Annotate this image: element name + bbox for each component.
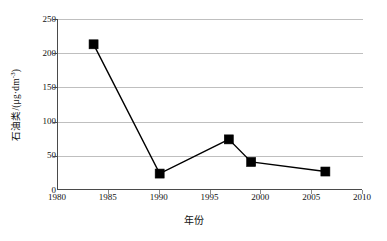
data-point-1 [155,169,164,178]
data-point-3 [247,157,256,166]
data-series-layer [58,19,363,190]
plot-area [57,19,362,190]
data-point-0 [89,40,98,49]
y-axis-title-text: 石油类/(μg·dm [11,78,21,141]
series-line [94,44,326,173]
x-tick-mark-1990 [159,190,160,194]
x-tick-mark-1985 [108,190,109,194]
x-tick-mark-2005 [311,190,312,194]
x-axis-title: 年份 [0,212,387,227]
oil-concentration-line-chart: 石油类/(μg·dm-3) 050100150200250 1980198519… [0,0,387,241]
data-point-2 [224,135,233,144]
y-axis-title: 石油类/(μg·dm-3) [8,38,24,172]
x-tick-mark-1995 [210,190,211,194]
x-tick-label-1980: 1980 [37,192,77,202]
x-tick-mark-2010 [362,190,363,194]
data-point-4 [321,167,330,176]
series-markers [89,40,330,178]
y-axis-title-tail: ) [11,69,21,72]
y-axis-title-exponent: -3 [9,72,16,78]
x-tick-mark-2000 [260,190,261,194]
